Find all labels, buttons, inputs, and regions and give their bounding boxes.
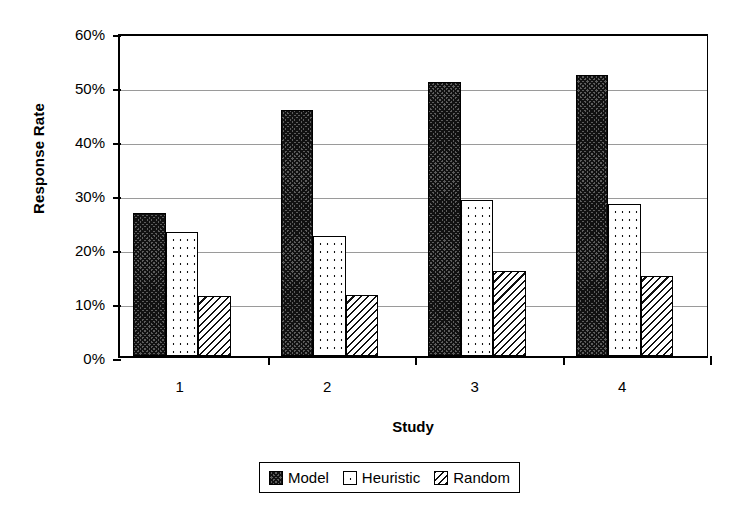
x-axis-tick-label: 3: [445, 378, 505, 395]
bar-model-study-1: [133, 213, 166, 356]
legend-swatch-icon-random: [434, 471, 448, 485]
bar-heuristic-study-2: [313, 236, 346, 356]
x-axis-tick-label: 2: [297, 378, 357, 395]
y-axis-tick: [113, 359, 121, 361]
x-axis-tick-label: 1: [150, 378, 210, 395]
legend-item-random: Random: [434, 470, 510, 485]
y-axis-tick: [113, 197, 121, 199]
bar-random-study-2: [346, 295, 379, 356]
y-axis-tick: [113, 251, 121, 253]
legend: ModelHeuristicRandom: [259, 462, 520, 493]
plot-area: [118, 34, 708, 358]
y-axis-tick: [113, 35, 121, 37]
bar-random-study-3: [493, 271, 526, 356]
bar-heuristic-study-1: [166, 232, 199, 356]
gridline: [120, 90, 707, 91]
y-axis-tick-label: 20%: [45, 243, 105, 258]
y-axis-tick-label: 40%: [45, 135, 105, 150]
x-axis-tick: [710, 356, 712, 365]
x-axis-tick: [415, 356, 417, 365]
bar-chart: Response Rate 0%10%20%30%40%50%60% 1234 …: [0, 0, 735, 519]
y-axis-tick-label: 60%: [45, 27, 105, 42]
y-axis-tick-labels: 0%10%20%30%40%50%60%: [43, 0, 105, 519]
bar-heuristic-study-4: [608, 204, 641, 356]
gridline: [120, 198, 707, 199]
x-axis-tick: [563, 356, 565, 365]
legend-swatch-icon-heuristic: [343, 471, 357, 485]
legend-swatch-icon-model: [269, 471, 283, 485]
legend-item-heuristic: Heuristic: [343, 470, 420, 485]
bar-random-study-1: [198, 296, 231, 356]
bar-model-study-2: [281, 110, 314, 356]
x-axis-tick-label: 4: [592, 378, 652, 395]
y-axis-tick: [113, 143, 121, 145]
y-axis-tick: [113, 89, 121, 91]
x-axis-tick: [268, 356, 270, 365]
bar-model-study-3: [428, 82, 461, 356]
y-axis-tick-label: 30%: [45, 189, 105, 204]
legend-item-model: Model: [269, 470, 329, 485]
gridline: [120, 144, 707, 145]
bar-heuristic-study-3: [461, 200, 494, 356]
x-axis-title: Study: [118, 418, 708, 435]
legend-label: Model: [288, 470, 329, 485]
legend-label: Heuristic: [362, 470, 420, 485]
y-axis-tick: [113, 305, 121, 307]
bar-model-study-4: [576, 75, 609, 356]
y-axis-tick-label: 0%: [45, 351, 105, 366]
y-axis-tick-label: 10%: [45, 297, 105, 312]
legend-label: Random: [453, 470, 510, 485]
y-axis-tick-label: 50%: [45, 81, 105, 96]
bar-random-study-4: [641, 276, 674, 356]
